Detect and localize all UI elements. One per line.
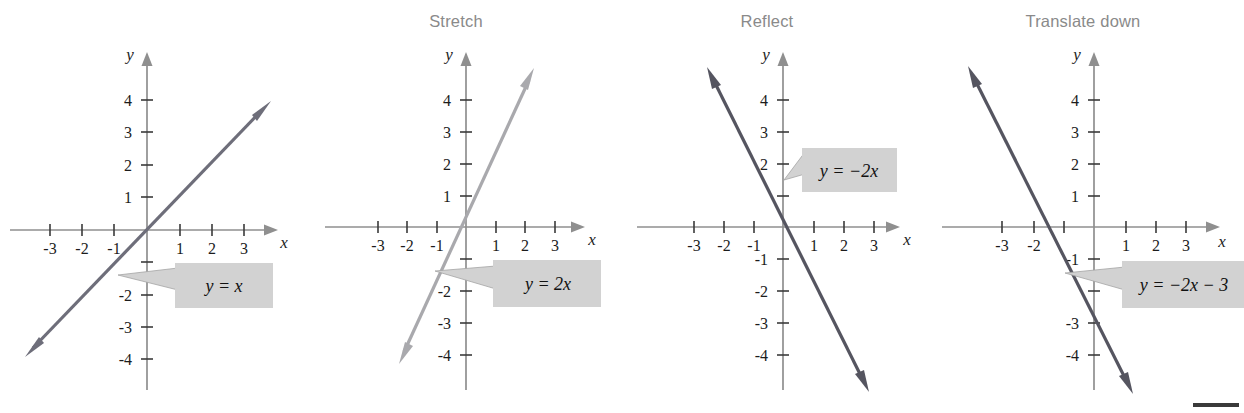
y-axis-4: 4 3 2 1 -1 -3 -4 y bbox=[1066, 45, 1100, 390]
y-tick-label: 2 bbox=[124, 157, 132, 174]
equation-label: y = 2x bbox=[523, 274, 571, 294]
equation-label: y = x bbox=[203, 276, 242, 296]
x-tick-label: -1 bbox=[107, 240, 120, 257]
callout-2: y = 2x bbox=[435, 260, 601, 307]
x-tick-label: -2 bbox=[717, 237, 730, 254]
y-tick-label: 3 bbox=[760, 124, 768, 141]
x-tick-label: 2 bbox=[840, 237, 848, 254]
x-tick-label: 3 bbox=[551, 237, 559, 254]
x-axis-label: x bbox=[1217, 232, 1226, 251]
y-tick-label: 3 bbox=[1071, 124, 1079, 141]
y-tick-label: 4 bbox=[124, 92, 132, 109]
y-tick-label: -2 bbox=[438, 283, 451, 300]
y-tick-label: -2 bbox=[119, 287, 132, 304]
y-tick-label: -4 bbox=[755, 347, 768, 364]
x-tick-label: 2 bbox=[521, 237, 529, 254]
x-axis-3: -3 -2 -1 1 2 3 x bbox=[637, 221, 911, 254]
line-y-equals-x bbox=[25, 101, 271, 357]
x-tick-label: 2 bbox=[1152, 237, 1160, 254]
callout-4: y = −2x − 3 bbox=[1065, 261, 1244, 308]
panel-stretch: Stretch -3 -2 -1 1 2 3 x bbox=[300, 0, 612, 413]
page-corner-mark bbox=[1193, 403, 1239, 407]
y-tick-label: -4 bbox=[1066, 347, 1079, 364]
y-tick-label: -3 bbox=[438, 315, 451, 332]
y-tick-label: 3 bbox=[443, 124, 451, 141]
x-tick-label: -2 bbox=[400, 237, 413, 254]
equation-label: y = −2x bbox=[818, 161, 878, 181]
y-tick-label: 1 bbox=[124, 189, 132, 206]
x-tick-label: 3 bbox=[1182, 237, 1190, 254]
y-tick-label: 4 bbox=[443, 92, 451, 109]
y-axis-3: 4 3 2 -1 -2 -3 -4 y bbox=[755, 45, 789, 390]
y-tick-label: 2 bbox=[1071, 156, 1079, 173]
y-tick-label: 4 bbox=[760, 92, 768, 109]
y-tick-label: 3 bbox=[124, 124, 132, 141]
y-axis-label: y bbox=[124, 45, 134, 64]
panel-reflect: Reflect -3 -2 -1 1 2 3 x bbox=[612, 0, 922, 413]
x-tick-label: 1 bbox=[176, 240, 184, 257]
plot-2: -3 -2 -1 1 2 3 x 4 3 2 1 -2 -3 -4 y bbox=[300, 0, 612, 413]
y-tick-label: 2 bbox=[443, 156, 451, 173]
y-axis-label: y bbox=[760, 45, 770, 64]
x-tick-label: -1 bbox=[430, 237, 443, 254]
y-axis-label: y bbox=[443, 45, 453, 64]
x-tick-label: 3 bbox=[240, 240, 248, 257]
y-axis-label: y bbox=[1071, 45, 1081, 64]
x-tick-label: 1 bbox=[810, 237, 818, 254]
panel-y-equals-x: -3 -2 -1 1 2 3 x 4 3 2 1 -2 -3 -4 bbox=[0, 0, 300, 413]
y-tick-label: 2 bbox=[760, 156, 768, 173]
y-axis-1: 4 3 2 1 -2 -3 -4 y bbox=[119, 45, 153, 390]
x-tick-label: -3 bbox=[995, 237, 1008, 254]
x-tick-label: 2 bbox=[208, 240, 216, 257]
plot-4: -3 -2 1 2 3 x 4 3 2 1 -1 -3 -4 bbox=[922, 0, 1244, 413]
y-tick-label: 1 bbox=[443, 188, 451, 205]
x-tick-label: -3 bbox=[43, 240, 56, 257]
x-axis-label: x bbox=[587, 230, 596, 249]
x-tick-label: -2 bbox=[1027, 237, 1040, 254]
panel-translate-down: Translate down -3 -2 1 2 3 x bbox=[922, 0, 1244, 413]
callout-1: y = x bbox=[118, 263, 273, 308]
plot-3: -3 -2 -1 1 2 3 x 4 3 2 -1 -2 -3 -4 y bbox=[612, 0, 922, 413]
y-tick-label: -2 bbox=[755, 283, 768, 300]
y-tick-label: -3 bbox=[119, 319, 132, 336]
y-tick-label: -3 bbox=[755, 315, 768, 332]
y-tick-label: -1 bbox=[755, 251, 768, 268]
y-tick-label: 1 bbox=[1071, 188, 1079, 205]
x-tick-label: 1 bbox=[492, 237, 500, 254]
line-y-equals-minus2x-minus3 bbox=[968, 66, 1133, 394]
x-axis-4: -3 -2 1 2 3 x bbox=[942, 221, 1226, 254]
x-tick-label: -2 bbox=[75, 240, 88, 257]
y-tick-label: -3 bbox=[1066, 315, 1079, 332]
x-axis-label: x bbox=[902, 230, 911, 249]
callout-3: y = −2x bbox=[784, 148, 897, 192]
x-tick-label: 3 bbox=[870, 237, 878, 254]
y-tick-label: -4 bbox=[119, 351, 132, 368]
plot-1: -3 -2 -1 1 2 3 x 4 3 2 1 -2 -3 -4 bbox=[0, 0, 300, 413]
y-tick-label: 4 bbox=[1071, 92, 1079, 109]
x-tick-label: -3 bbox=[687, 237, 700, 254]
x-tick-label: -3 bbox=[371, 237, 384, 254]
y-tick-label: -4 bbox=[438, 347, 451, 364]
x-axis-label: x bbox=[279, 233, 288, 252]
equation-label: y = −2x − 3 bbox=[1138, 275, 1228, 295]
x-tick-label: 1 bbox=[1122, 237, 1130, 254]
